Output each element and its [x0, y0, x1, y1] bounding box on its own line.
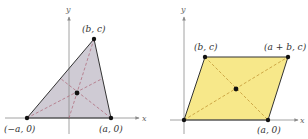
center-dot — [234, 87, 239, 92]
vertex-a0-dot — [109, 116, 113, 120]
centroid-dot — [75, 91, 80, 96]
vertex-a0-dot-right — [266, 118, 270, 122]
triangle-a0-label: (a, 0) — [99, 124, 123, 134]
vertex-bc-dot — [92, 37, 96, 41]
triangle-figure: y x (b, c) (−a, 0) (a, 0) — [4, 5, 147, 134]
parallelogram-bc-label: (b, c) — [194, 42, 218, 52]
vertex-origin-dot — [182, 118, 186, 122]
triangle-x-label: x — [142, 114, 147, 123]
vertex-bc-dot-right — [203, 55, 207, 59]
parallelogram-x-label: x — [300, 116, 305, 125]
diagram-canvas: y x (b, c) (−a, 0) (a, 0) y x (b, c) (a … — [0, 0, 308, 139]
parallelogram-figure: y x (b, c) (a + b, c) (a, 0) — [170, 5, 307, 135]
parallelogram-abc-label: (a + b, c) — [264, 42, 307, 52]
vertex-abc-dot — [286, 55, 290, 59]
parallelogram-y-label: y — [180, 5, 186, 14]
triangle-y-label: y — [65, 5, 71, 14]
triangle-bc-label: (b, c) — [82, 24, 106, 34]
vertex-neg-a0-dot — [25, 116, 29, 120]
triangle-neg-a0-label: (−a, 0) — [4, 124, 36, 134]
parallelogram-a0-label: (a, 0) — [257, 125, 281, 135]
